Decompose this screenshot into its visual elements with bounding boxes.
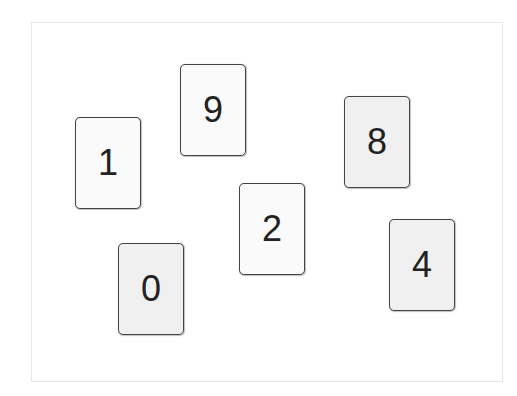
card-label: 4 [412, 244, 432, 286]
card-0[interactable]: 0 [118, 243, 184, 335]
card-label: 2 [262, 208, 282, 250]
card-label: 1 [98, 142, 118, 184]
card-label: 0 [141, 268, 161, 310]
card-1[interactable]: 1 [75, 117, 141, 209]
card-8[interactable]: 8 [344, 96, 410, 188]
card-label: 9 [203, 89, 223, 131]
card-4[interactable]: 4 [389, 219, 455, 311]
card-9[interactable]: 9 [180, 64, 246, 156]
card-2[interactable]: 2 [239, 183, 305, 275]
card-label: 8 [367, 121, 387, 163]
